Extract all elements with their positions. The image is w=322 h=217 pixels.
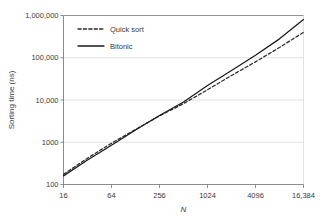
y-axis-title: Sorting time (ns) bbox=[7, 70, 16, 129]
x-tick-label-1024: 1024 bbox=[199, 191, 216, 200]
gridlines bbox=[64, 16, 304, 185]
y-tick-label-10000: 10,000 bbox=[36, 96, 59, 105]
legend-label-bitonic: Bitonic bbox=[110, 42, 133, 51]
legend: Quick sortBitonic bbox=[78, 25, 145, 51]
legend-label-quick-sort: Quick sort bbox=[110, 25, 145, 34]
sorting-time-line-chart: 100100010,000100,0001,000,00016642561024… bbox=[0, 0, 322, 217]
x-axis-title: N bbox=[181, 205, 187, 214]
x-tick-label-16384: 16,384 bbox=[292, 191, 315, 200]
y-tick-label-100: 100 bbox=[46, 180, 59, 189]
x-tick-label-64: 64 bbox=[107, 191, 115, 200]
x-tick-label-256: 256 bbox=[153, 191, 166, 200]
x-tick-marks bbox=[64, 185, 304, 189]
y-tick-label-100000: 100,000 bbox=[31, 53, 58, 62]
series-line-bitonic bbox=[64, 20, 304, 176]
y-tick-label-1000000: 1,000,000 bbox=[25, 11, 58, 20]
x-tick-labels: 16642561024409616,384 bbox=[59, 191, 315, 200]
x-tick-label-4096: 4096 bbox=[247, 191, 264, 200]
chart-container: 100100010,000100,0001,000,00016642561024… bbox=[0, 0, 322, 217]
y-tick-label-1000: 1000 bbox=[42, 138, 59, 147]
x-tick-label-16: 16 bbox=[59, 191, 67, 200]
y-tick-labels: 100100010,000100,0001,000,000 bbox=[25, 11, 58, 189]
